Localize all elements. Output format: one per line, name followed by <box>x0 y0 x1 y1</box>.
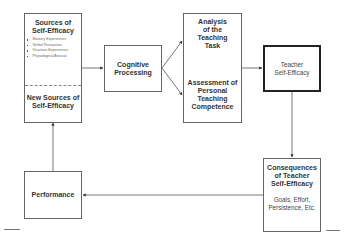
analysis-assessment-box: Analysis of the Teaching Task Assessment… <box>183 13 242 123</box>
new-sources-line2: Self-Efficacy <box>32 102 74 110</box>
assessment-line: Competence <box>191 103 233 111</box>
sources-of-self-efficacy-box: Sources of Self-Efficacy Mastery Experie… <box>24 13 82 123</box>
cognitive-processing-box: Cognitive Processing <box>104 45 162 92</box>
consequences-detail-line: Goals, Effort, <box>274 196 311 204</box>
assessment-section: Assessment of Personal Teaching Competen… <box>184 79 241 111</box>
teacher-line1: Teacher <box>281 61 303 69</box>
consequences-title-line: Self-Efficacy <box>271 180 313 188</box>
new-sources-line1: New Sources of <box>27 94 80 102</box>
analysis-line: Analysis <box>198 18 227 26</box>
sources-list: Mastery Experiences Verbal Persuasion Vi… <box>24 37 83 59</box>
assessment-line: Teaching <box>197 95 227 103</box>
consequences-box: Consequences of Teacher Self-Efficacy Go… <box>263 158 321 232</box>
consequences-title-line: Consequences <box>267 164 317 172</box>
performance-box: Performance <box>24 171 82 219</box>
teacher-self-efficacy-box: Teacher Self-Efficacy <box>263 45 321 92</box>
analysis-line: Task <box>205 42 220 50</box>
cognitive-line1: Cognitive <box>117 61 149 69</box>
arrow-cognitive-to-assessment <box>162 68 182 95</box>
analysis-section: Analysis of the Teaching Task <box>184 18 241 50</box>
sources-title-line2: Self-Efficacy <box>32 27 74 35</box>
sources-title-line1: Sources of <box>35 19 71 27</box>
assessment-line: Personal <box>198 87 228 95</box>
decorative-line-left <box>4 229 20 230</box>
new-sources-section: New Sources of Self-Efficacy <box>25 94 81 110</box>
consequences-title-line: of Teacher <box>275 172 310 180</box>
arrow-cognitive-to-analysis <box>162 41 182 68</box>
cognitive-line2: Processing <box>114 69 152 77</box>
analysis-line: of the <box>203 26 222 34</box>
list-item: Physiological Arousal <box>33 54 83 60</box>
consequences-detail-line: Persistence, Etc. <box>268 204 315 212</box>
teacher-line2: Self-Efficacy <box>275 69 310 77</box>
performance-label: Performance <box>32 191 75 199</box>
decorative-line-right <box>326 230 340 231</box>
dashed-divider <box>25 85 81 86</box>
analysis-line: Teaching <box>197 34 227 42</box>
assessment-line: Assessment of <box>188 79 238 87</box>
sources-top-section: Sources of Self-Efficacy Mastery Experie… <box>25 19 81 59</box>
